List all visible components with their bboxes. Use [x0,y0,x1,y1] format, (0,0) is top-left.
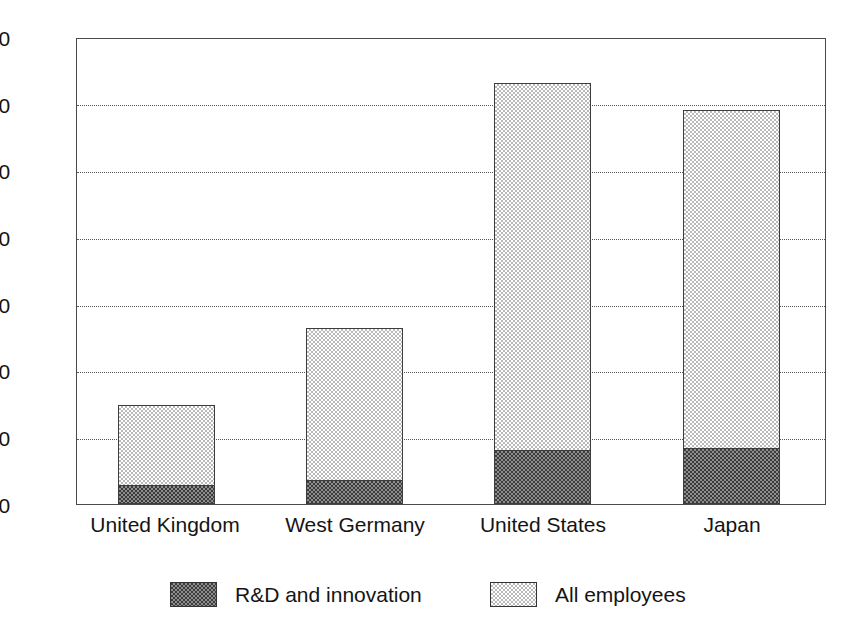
legend-swatch-rd-and-innovation [170,582,217,607]
bar-segment-rd-and-innovation [683,448,780,504]
y-axis-tick-1000: 1000 [0,161,10,182]
legend-item-rd-and-innovation[interactable]: R&D and innovation [170,578,422,610]
bar-segment-all-employees [494,83,591,451]
y-axis-tick-1400: 1400 [0,28,10,49]
y-axis-tick-800: 800 [0,228,10,249]
y-axis-tick-200: 200 [0,428,10,449]
stacked-bar-chart: 1400 1200 1000 800 600 400 200 0 [0,0,846,642]
y-axis-tick-600: 600 [0,295,10,316]
bar-segment-all-employees [306,328,403,481]
bar-segment-all-employees [118,405,215,486]
y-axis-tick-400: 400 [0,361,10,382]
bar-segment-rd-and-innovation [306,480,403,504]
legend-swatch-all-employees [490,582,537,607]
bar-segment-rd-and-innovation [118,485,215,504]
legend-item-all-employees[interactable]: All employees [490,578,686,610]
y-axis-tick-1200: 1200 [0,95,10,116]
chart-legend: R&D and innovation All employees [0,578,846,618]
y-axis-tick-0: 0 [0,495,10,516]
bar-segment-rd-and-innovation [494,450,591,504]
bar-segment-all-employees [683,110,780,449]
x-axis-label-japan: Japan [617,513,846,537]
plot-area [76,38,826,505]
legend-label-all-employees: All employees [555,584,686,605]
gridline-1200 [77,105,825,106]
legend-label-rd-and-innovation: R&D and innovation [235,584,422,605]
